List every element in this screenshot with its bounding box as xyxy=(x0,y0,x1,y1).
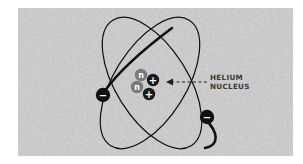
proton-symbol: + xyxy=(145,89,153,100)
electron-2-trail xyxy=(205,120,216,148)
label-line-2: NUCLEUS xyxy=(210,82,250,91)
proton-symbol: + xyxy=(149,75,157,86)
neutron-2: n xyxy=(131,81,143,93)
helium-nucleus-label: HELIUM NUCLEUS xyxy=(210,73,250,91)
nucleus-pointer-arrow xyxy=(166,79,207,86)
neutron-symbol: n xyxy=(138,71,144,80)
proton-2: + xyxy=(143,88,155,100)
electron-1: − xyxy=(96,88,110,102)
neutron-symbol: n xyxy=(134,83,140,92)
label-line-1: HELIUM xyxy=(210,73,250,82)
atom-diagram: n + n + − − xyxy=(0,0,303,164)
electron-2: − xyxy=(200,110,214,124)
proton-1: + xyxy=(147,74,159,86)
helium-nucleus: n + n + xyxy=(131,69,159,100)
electron-symbol: − xyxy=(203,112,211,123)
electron-symbol: − xyxy=(99,90,107,101)
neutron-1: n xyxy=(135,69,147,81)
